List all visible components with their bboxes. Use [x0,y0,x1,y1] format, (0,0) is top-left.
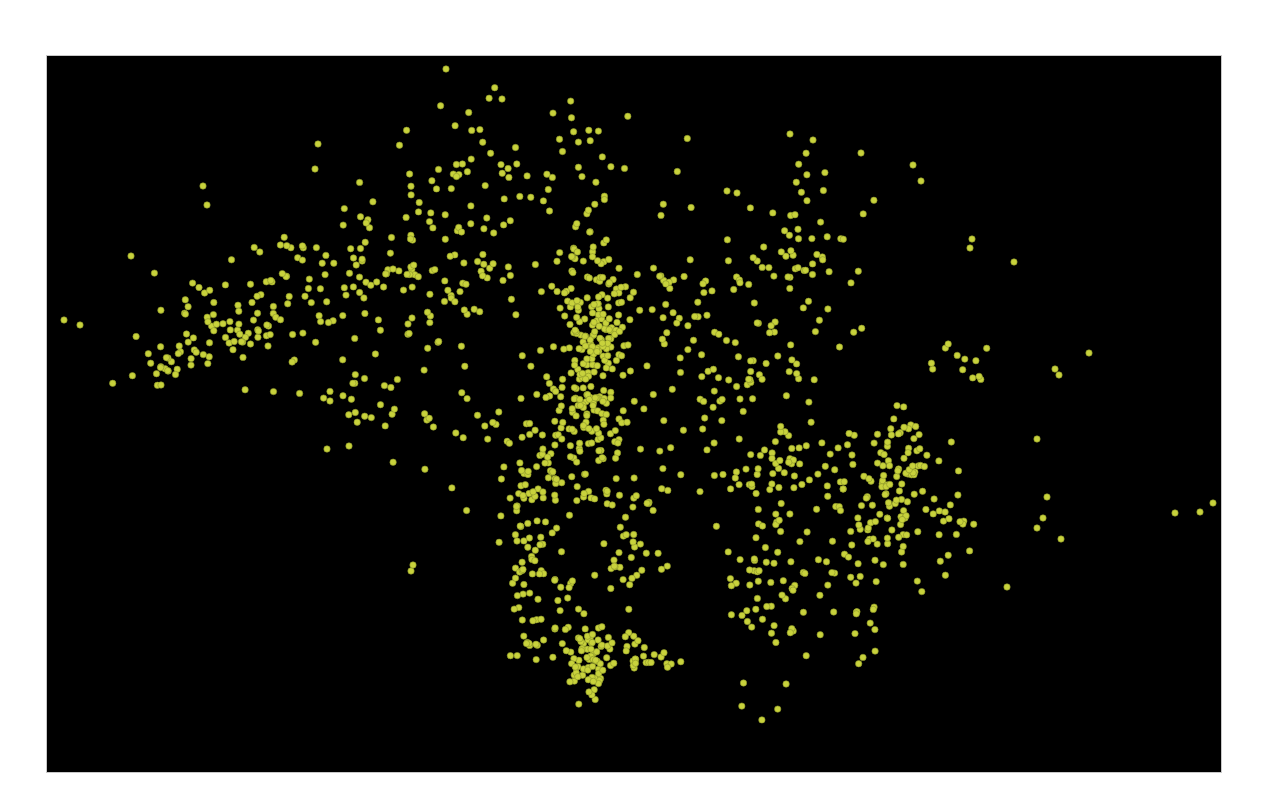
data-point [704,312,710,318]
data-point [601,541,607,547]
data-point [346,270,352,276]
data-point [512,575,518,581]
data-point [811,377,817,383]
data-point [443,66,449,72]
data-point [308,299,314,305]
data-point [777,457,783,463]
data-point [713,523,719,529]
data-point [552,418,558,424]
data-point [680,427,686,433]
data-point [569,426,575,432]
data-point [281,234,287,240]
data-point [452,299,458,305]
data-point [277,242,283,248]
data-point [205,360,211,366]
data-point [733,469,739,475]
data-point [507,495,513,501]
data-point [452,123,458,129]
data-point [574,483,580,489]
data-point [550,469,556,475]
data-point [802,267,808,273]
data-point [815,471,821,477]
data-point [525,544,531,550]
data-point [157,344,163,350]
data-point [302,293,308,299]
data-point [600,667,606,673]
data-point [185,339,191,345]
data-point [793,179,799,185]
data-point [513,312,519,318]
data-point [532,261,538,267]
data-point [769,455,775,461]
data-point [416,199,422,205]
data-point [620,576,626,582]
data-point [659,336,665,342]
data-point [970,375,976,381]
data-point [651,651,657,657]
data-point [554,258,560,264]
data-point [61,317,67,323]
data-point [804,172,810,178]
data-point [783,393,789,399]
data-point [872,648,878,654]
data-point [670,310,676,316]
data-point [593,179,599,185]
data-point [650,265,656,271]
data-point [1011,259,1017,265]
data-point [661,650,667,656]
data-point [566,512,572,518]
data-point [296,390,302,396]
data-point [678,659,684,665]
data-point [527,431,533,437]
data-point [604,655,610,661]
scatter-points [47,56,1221,772]
data-point [870,606,876,612]
data-point [532,558,538,564]
data-point [881,451,887,457]
data-point [572,664,578,670]
data-point [622,514,628,520]
data-point [894,402,900,408]
data-point [586,689,592,695]
data-point [240,354,246,360]
data-point [535,596,541,602]
data-point [561,290,567,296]
data-point [569,406,575,412]
data-point [481,261,487,267]
data-point [669,386,675,392]
data-point [936,508,942,514]
data-point [806,477,812,483]
data-point [845,554,851,560]
data-point [608,164,614,170]
data-point [575,304,581,310]
data-point [265,343,271,349]
data-point [559,640,565,646]
data-point [388,384,394,390]
data-point [749,396,755,402]
data-point [1056,372,1062,378]
data-point [668,445,674,451]
data-point [193,349,199,355]
data-point [733,383,739,389]
data-point [406,330,412,336]
data-point [969,236,975,242]
data-point [719,396,725,402]
data-point [611,291,617,297]
data-point [641,406,647,412]
data-point [387,250,393,256]
data-point [1034,525,1040,531]
data-point [374,279,380,285]
data-point [1052,366,1058,372]
data-point [775,549,781,555]
data-point [848,280,854,286]
data-point [320,395,326,401]
data-point [860,211,866,217]
data-point [750,255,756,261]
data-point [910,162,916,168]
data-point [841,479,847,485]
data-point [151,270,157,276]
data-point [771,273,777,279]
data-point [724,188,730,194]
data-point [605,353,611,359]
data-point [837,507,843,513]
